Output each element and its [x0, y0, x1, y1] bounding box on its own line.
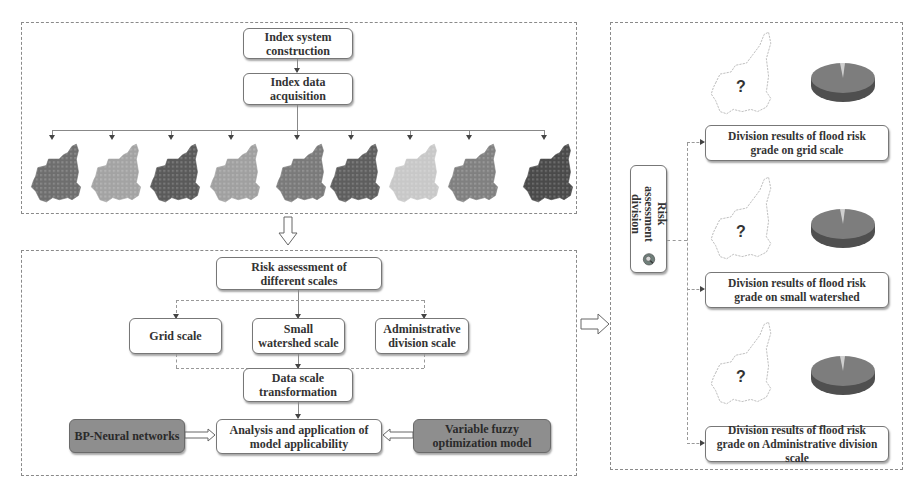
- arrow-down-icon: [541, 135, 547, 140]
- merge-line: [424, 354, 425, 368]
- index-data-acquisition-box: Index data acquisition: [243, 73, 353, 105]
- arrow-down-icon: [168, 135, 174, 140]
- outline-map: [706, 175, 776, 265]
- unknown-mark: ?: [736, 368, 746, 386]
- outline-map: [706, 320, 776, 410]
- magnifier-globe-icon: [639, 253, 659, 266]
- division-result-box-2: Division results of flood risk grade on …: [705, 272, 889, 308]
- arrow-down-icon: [294, 135, 300, 140]
- arrow-down-icon: [109, 135, 115, 140]
- division-result-box-1: Division results of flood risk grade on …: [705, 125, 889, 161]
- arrow-down-icon: [228, 135, 234, 140]
- unknown-mark: ?: [736, 78, 746, 96]
- unknown-mark: ?: [736, 223, 746, 241]
- branch-line: [176, 300, 424, 301]
- pie-chart-icon: [810, 208, 876, 254]
- arrow-down-icon: [49, 135, 55, 140]
- index-map-2: [84, 142, 148, 208]
- variable-fuzzy-optimization-box: Variable fuzzy optimization model: [413, 419, 551, 453]
- index-map-4: [203, 142, 267, 208]
- analysis-application-box: Analysis and application of model applic…: [216, 419, 382, 454]
- index-map-1: [24, 142, 88, 208]
- risk-assessment-division-label: Risk assessment division: [629, 174, 668, 253]
- hollow-arrow-left-icon: [382, 428, 413, 442]
- risk-assessment-box: Risk assessment of different scales: [216, 257, 382, 290]
- hollow-arrow-down-icon: [278, 216, 298, 246]
- arrow-down-icon: [348, 135, 354, 140]
- index-system-construction-box: Index system construction: [243, 28, 353, 59]
- index-map-3: [143, 142, 207, 208]
- administrative-division-scale-box: Administrative division scale: [375, 318, 469, 354]
- grid-scale-box: Grid scale: [129, 318, 222, 354]
- index-map-7: [382, 142, 446, 208]
- index-map-8: [441, 142, 505, 208]
- arrow-down-icon: [466, 135, 472, 140]
- hollow-arrow-right-icon: [580, 313, 610, 335]
- tree-trunk: [687, 143, 688, 440]
- pie-chart-icon: [810, 62, 876, 108]
- outline-map: [706, 30, 776, 120]
- connector: [297, 105, 298, 130]
- data-scale-transformation-box: Data scale transformation: [243, 368, 353, 402]
- tree-stem: [667, 240, 687, 241]
- risk-assessment-division-box: Risk assessment division: [630, 165, 667, 273]
- arrow-down-icon: [407, 135, 413, 140]
- hollow-arrow-right-icon: [185, 428, 216, 442]
- index-map-9: [516, 142, 580, 208]
- pie-chart-icon: [810, 355, 876, 401]
- division-result-box-3: Division results of flood risk grade on …: [705, 426, 889, 462]
- distribution-line: [52, 130, 544, 131]
- index-map-6: [323, 142, 387, 208]
- bp-neural-networks-box: BP-Neural networks: [69, 419, 185, 453]
- small-watershed-scale-box: Small watershed scale: [252, 318, 345, 354]
- merge-line: [176, 354, 177, 368]
